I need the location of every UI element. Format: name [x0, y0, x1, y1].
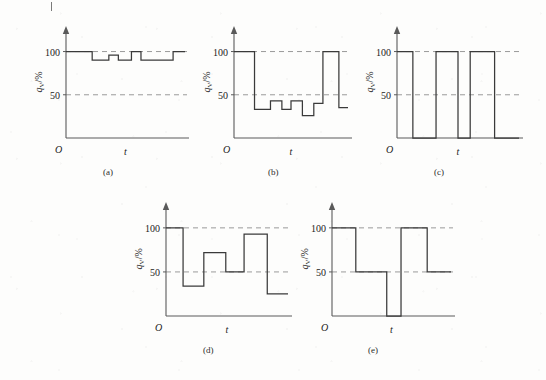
chart-panel-a: 10050OtqV/%	[24, 22, 189, 172]
y-axis-label-group: qV/%	[133, 248, 146, 269]
origin-label: O	[223, 144, 230, 155]
caption-a: (a)	[103, 167, 113, 177]
y-axis-label: qV/%	[201, 71, 214, 92]
y-axis-label-unit: /%	[364, 71, 375, 82]
data-trace-a	[66, 52, 185, 61]
y-axis-label: qV/%	[133, 248, 146, 269]
origin-label: O	[55, 144, 62, 155]
ytick-label-100: 100	[376, 47, 391, 58]
chart-panel-e: 10050OtqV/%	[290, 198, 455, 350]
y-axis-label-unit: /%	[133, 248, 144, 259]
ytick-label-100: 100	[311, 223, 326, 234]
caption-d: (d)	[203, 345, 214, 355]
y-axis-label-group: qV/%	[201, 71, 214, 92]
y-axis-label-group: qV/%	[364, 71, 377, 92]
y-axis-arrow	[394, 26, 400, 34]
chart-panel-c: 10050OtqV/%	[355, 22, 523, 172]
caption-c: (c)	[434, 167, 444, 177]
x-axis-label: t	[124, 146, 127, 157]
data-trace-d	[166, 228, 288, 294]
y-axis-label-unit: /%	[201, 71, 212, 82]
ytick-label-50: 50	[381, 90, 391, 101]
x-axis-label: t	[390, 324, 393, 335]
ytick-label-50: 50	[218, 90, 228, 101]
y-axis-label: qV/%	[299, 248, 312, 269]
y-axis-label-unit: /%	[299, 248, 310, 259]
data-trace-e	[332, 228, 451, 316]
x-axis-label: t	[226, 324, 229, 335]
ytick-label-100: 100	[45, 47, 60, 58]
y-axis-arrow	[63, 26, 69, 34]
origin-label: O	[155, 322, 162, 333]
y-axis-arrow	[231, 26, 237, 34]
y-axis-arrow	[163, 202, 169, 210]
page-mark	[51, 2, 52, 11]
ytick-label-50: 50	[316, 267, 326, 278]
chart-svg-a: 10050OtqV/%	[24, 22, 189, 172]
y-axis-label: qV/%	[33, 71, 46, 92]
y-axis-arrow	[329, 202, 335, 210]
figure-sheet: 10050OtqV/% 10050OtqV/% 10050OtqV/% 1005…	[0, 0, 546, 380]
data-trace-b	[234, 52, 348, 116]
caption-e: (e)	[368, 345, 378, 355]
chart-svg-c: 10050OtqV/%	[355, 22, 523, 172]
ytick-label-50: 50	[150, 267, 160, 278]
chart-svg-b: 10050OtqV/%	[192, 22, 352, 172]
chart-svg-d: 10050OtqV/%	[124, 198, 292, 350]
origin-label: O	[321, 322, 328, 333]
chart-panel-b: 10050OtqV/%	[192, 22, 352, 172]
chart-svg-e: 10050OtqV/%	[290, 198, 455, 350]
ytick-label-100: 100	[145, 223, 160, 234]
caption-b: (b)	[268, 167, 279, 177]
origin-label: O	[386, 144, 393, 155]
ytick-label-50: 50	[50, 90, 60, 101]
y-axis-label-group: qV/%	[33, 71, 46, 92]
x-axis-label: t	[457, 146, 460, 157]
ytick-label-100: 100	[213, 47, 228, 58]
x-axis-label: t	[290, 146, 293, 157]
chart-panel-d: 10050OtqV/%	[124, 198, 292, 350]
y-axis-label-group: qV/%	[299, 248, 312, 269]
y-axis-label-unit: /%	[33, 71, 44, 82]
y-axis-label: qV/%	[364, 71, 377, 92]
